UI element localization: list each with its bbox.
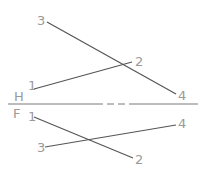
front_view-point-label-4: 4 [178, 116, 186, 131]
plane-label-f: F [13, 106, 20, 121]
top_view-point-label-3: 3 [37, 13, 45, 28]
top_view-point-label-2: 2 [135, 54, 143, 69]
front_view-segment-1-2 [34, 117, 133, 158]
diagram-svg: H F 1234 1234 [0, 0, 204, 176]
front_view-point-label-1: 1 [28, 109, 36, 124]
top_view-segment-3-4 [47, 22, 176, 94]
top_view-point-label-4: 4 [178, 88, 186, 103]
front_view-point-label-3: 3 [37, 140, 45, 155]
top-view: 1234 [28, 13, 186, 103]
front_view-point-label-2: 2 [135, 152, 143, 167]
front-view: 1234 [28, 109, 186, 167]
projection-diagram: H F 1234 1234 [0, 0, 204, 176]
plane-label-h: H [14, 89, 24, 104]
top_view-point-label-1: 1 [28, 78, 36, 93]
top_view-segment-1-2 [34, 62, 132, 89]
front_view-segment-3-4 [45, 125, 176, 147]
